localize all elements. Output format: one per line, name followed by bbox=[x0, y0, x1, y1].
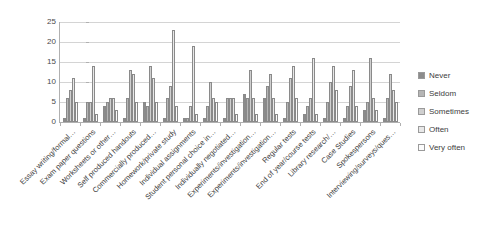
y-tick-label: 0 bbox=[34, 118, 56, 126]
bar bbox=[135, 102, 138, 122]
x-category-label: Individually negotiated… bbox=[174, 128, 237, 191]
legend-item[interactable]: Very often bbox=[418, 138, 502, 156]
y-tick-label: 10 bbox=[34, 78, 56, 86]
x-tick-mark bbox=[400, 123, 401, 126]
x-category-label: Spokespersons bbox=[335, 128, 377, 170]
chart-legend: NeverSeldomSometimesOftenVery often bbox=[418, 66, 502, 156]
x-tick-mark bbox=[180, 123, 181, 126]
bar-group bbox=[320, 22, 340, 122]
x-tick-mark bbox=[240, 123, 241, 126]
x-category-label: Commercially produced… bbox=[91, 128, 158, 195]
y-tick-label: 15 bbox=[34, 58, 56, 66]
bars-layer bbox=[60, 22, 400, 122]
x-tick-mark bbox=[340, 123, 341, 126]
bar-group bbox=[200, 22, 220, 122]
bar-group bbox=[60, 22, 80, 122]
legend-item[interactable]: Sometimes bbox=[418, 102, 502, 120]
y-axis-tick-labels: 0510152025 bbox=[30, 0, 56, 233]
bar bbox=[235, 114, 238, 122]
bar-group bbox=[260, 22, 280, 122]
y-tick-label: 25 bbox=[34, 18, 56, 26]
x-tick-mark bbox=[100, 123, 101, 126]
bar bbox=[395, 102, 398, 122]
bar bbox=[192, 46, 195, 122]
bar-group bbox=[280, 22, 300, 122]
x-axis-ticks bbox=[60, 123, 400, 127]
x-tick-mark bbox=[120, 123, 121, 126]
x-category-label: Case Studies bbox=[320, 128, 357, 165]
bar-group bbox=[80, 22, 100, 122]
bar bbox=[255, 114, 258, 122]
bar-group bbox=[340, 22, 360, 122]
x-tick-mark bbox=[80, 123, 81, 126]
bar-group bbox=[240, 22, 260, 122]
x-tick-mark bbox=[360, 123, 361, 126]
y-tick-label: 5 bbox=[34, 98, 56, 106]
legend-swatch-icon bbox=[418, 108, 425, 115]
legend-item[interactable]: Often bbox=[418, 120, 502, 138]
x-tick-mark bbox=[160, 123, 161, 126]
x-tick-mark bbox=[140, 123, 141, 126]
bar bbox=[295, 98, 298, 122]
bar bbox=[155, 102, 158, 122]
x-tick-mark bbox=[260, 123, 261, 126]
bar bbox=[315, 114, 318, 122]
bar-group bbox=[100, 22, 120, 122]
x-category-label: Experiments/investigation… bbox=[206, 128, 277, 199]
bar-group bbox=[180, 22, 200, 122]
legend-label: Often bbox=[429, 125, 449, 134]
x-category-label: Library research/… bbox=[287, 128, 338, 179]
x-tick-mark bbox=[280, 123, 281, 126]
bar-group bbox=[220, 22, 240, 122]
x-tick-mark bbox=[60, 123, 61, 126]
x-category-label: Interviewing/surveys/ques… bbox=[326, 128, 398, 200]
x-tick-mark bbox=[380, 123, 381, 126]
bar-group bbox=[380, 22, 400, 122]
bar-group bbox=[120, 22, 140, 122]
bar-group bbox=[160, 22, 180, 122]
legend-label: Very often bbox=[429, 143, 465, 152]
legend-swatch-icon bbox=[418, 126, 425, 133]
x-category-label: End of year/course tests bbox=[255, 128, 318, 191]
bar bbox=[175, 106, 178, 122]
x-category-label: Regular tests bbox=[261, 128, 298, 165]
bar bbox=[115, 110, 118, 122]
bar bbox=[375, 110, 378, 122]
x-category-label: Worksheets or other… bbox=[59, 128, 118, 187]
legend-label: Seldom bbox=[429, 89, 456, 98]
x-category-label: Self produced handouts bbox=[76, 128, 138, 190]
x-category-label: Experiments/investigation… bbox=[186, 128, 257, 199]
legend-item[interactable]: Never bbox=[418, 66, 502, 84]
x-tick-mark bbox=[200, 123, 201, 126]
x-tick-mark bbox=[320, 123, 321, 126]
x-category-label: Student personal choice in… bbox=[144, 128, 217, 201]
bar bbox=[95, 114, 98, 122]
bar-group bbox=[140, 22, 160, 122]
x-tick-mark bbox=[300, 123, 301, 126]
legend-swatch-icon bbox=[418, 144, 425, 151]
bar bbox=[195, 114, 198, 122]
x-category-label: Homework/private study bbox=[115, 128, 178, 191]
legend-swatch-icon bbox=[418, 72, 425, 79]
bar bbox=[355, 106, 358, 122]
x-category-label: Individual assignments bbox=[138, 128, 197, 187]
x-tick-mark bbox=[220, 123, 221, 126]
bar bbox=[75, 102, 78, 122]
bar-group bbox=[300, 22, 320, 122]
legend-item[interactable]: Seldom bbox=[418, 84, 502, 102]
bar-group bbox=[360, 22, 380, 122]
y-tick-label: 20 bbox=[34, 38, 56, 46]
legend-label: Never bbox=[429, 71, 450, 80]
bar bbox=[312, 58, 315, 122]
bar bbox=[215, 102, 218, 122]
bar bbox=[275, 114, 278, 122]
bar-chart: 0510152025 Essay writing/formal…Exam pap… bbox=[0, 0, 502, 233]
legend-swatch-icon bbox=[418, 90, 425, 97]
legend-label: Sometimes bbox=[429, 107, 469, 116]
bar bbox=[335, 90, 338, 122]
